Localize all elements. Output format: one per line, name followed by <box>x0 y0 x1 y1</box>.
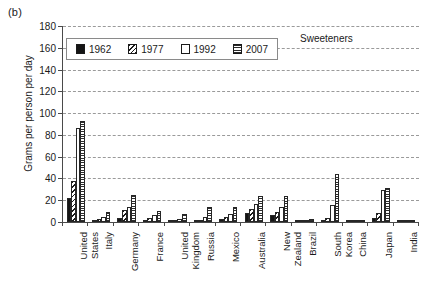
x-axis-label: India <box>409 232 420 292</box>
bar-group <box>397 26 415 222</box>
legend-label: 1992 <box>194 44 216 55</box>
x-tick-mark <box>265 222 266 226</box>
x-tick-mark <box>418 222 419 226</box>
x-axis-label: NewZealand <box>282 232 303 292</box>
x-tick-mark <box>393 222 394 226</box>
bar-2007 <box>157 211 162 222</box>
y-tick-label: 100 <box>26 108 56 119</box>
y-tick-label: 0 <box>26 217 56 228</box>
x-tick-mark <box>189 222 190 226</box>
x-axis-label: Germany <box>130 232 141 292</box>
x-tick-mark <box>62 222 63 226</box>
y-tick-label: 20 <box>26 195 56 206</box>
bar-group <box>321 26 339 222</box>
x-axis-label: UnitedKingdom <box>180 232 201 292</box>
y-tick-label: 40 <box>26 173 56 184</box>
x-axis-label: Brazil <box>308 232 319 292</box>
legend-swatch-icon <box>181 44 190 54</box>
bar-group <box>372 26 390 222</box>
bar-group <box>346 26 364 222</box>
bar-group <box>295 26 313 222</box>
bar-2007 <box>182 214 187 222</box>
x-tick-mark <box>215 222 216 226</box>
chart-title: Sweeteners <box>300 33 353 44</box>
x-axis-label: Japan <box>384 232 395 292</box>
x-tick-mark <box>113 222 114 226</box>
bar-2007 <box>385 188 390 222</box>
bar-2007 <box>207 207 212 222</box>
bar-2007 <box>131 195 136 222</box>
x-axis-label: Russia <box>206 232 217 292</box>
legend-item-1992: 1992 <box>181 44 216 55</box>
x-axis-label: Australia <box>257 232 268 292</box>
legend-label: 1962 <box>89 44 111 55</box>
legend-swatch-icon <box>128 44 137 54</box>
x-tick-mark <box>164 222 165 226</box>
y-tick-label: 60 <box>26 152 56 163</box>
x-axis-label: Italy <box>104 232 115 292</box>
y-tick-label: 80 <box>26 130 56 141</box>
bar-2007 <box>106 212 111 222</box>
x-tick-mark <box>367 222 368 226</box>
legend-item-1977: 1977 <box>128 44 163 55</box>
bar-2007 <box>80 121 85 222</box>
figure-container: (b) Grams per person per day 02040608010… <box>0 0 430 293</box>
legend-swatch-icon <box>76 44 85 54</box>
x-tick-mark <box>138 222 139 226</box>
panel-label: (b) <box>8 6 22 18</box>
x-axis-label: China <box>358 232 369 292</box>
y-tick-label: 160 <box>26 43 56 54</box>
x-axis-label: SouthKorea <box>333 232 354 292</box>
legend-label: 2007 <box>246 44 268 55</box>
legend-item-1962: 1962 <box>76 44 111 55</box>
legend-swatch-icon <box>233 44 242 54</box>
y-tick-label: 120 <box>26 86 56 97</box>
legend: 1962197719922007 <box>66 38 278 60</box>
bar-2007 <box>258 196 263 222</box>
legend-label: 1977 <box>141 44 163 55</box>
x-tick-mark <box>87 222 88 226</box>
y-tick-label: 180 <box>26 21 56 32</box>
legend-item-2007: 2007 <box>233 44 268 55</box>
x-tick-mark <box>316 222 317 226</box>
bar-2007 <box>284 196 289 222</box>
x-tick-mark <box>342 222 343 226</box>
y-tick-label: 140 <box>26 65 56 76</box>
x-axis-label: France <box>155 232 166 292</box>
x-axis-label: Mexico <box>231 232 242 292</box>
x-tick-mark <box>240 222 241 226</box>
x-tick-mark <box>291 222 292 226</box>
x-axis-label: UnitedStates <box>79 232 100 292</box>
bar-2007 <box>335 174 340 222</box>
bar-2007 <box>233 207 238 222</box>
